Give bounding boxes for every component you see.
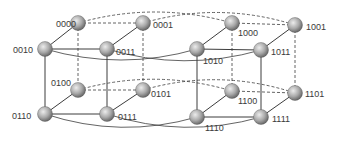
node-label: 1101: [305, 89, 324, 99]
node-sphere-icon: [38, 42, 53, 57]
node-sphere-icon: [254, 43, 269, 58]
node-sphere-icon: [71, 83, 86, 98]
node-sphere-icon: [100, 107, 115, 122]
edge-1010-1011: [197, 49, 261, 50]
node-sphere-icon: [254, 110, 269, 125]
node-label: 1000: [238, 28, 258, 38]
dashed-edge-1100-1101: [232, 91, 295, 93]
node-0111: 0111: [100, 107, 137, 123]
node-label: 0000: [56, 19, 76, 29]
node-label: 0110: [12, 111, 31, 121]
node-label: 1001: [306, 22, 326, 32]
node-0101: 0101: [136, 83, 172, 100]
node-1010: 1010: [190, 42, 224, 67]
node-label: 0101: [151, 89, 171, 99]
hypercube-diagram: 0000000110001001001000111010101101000101…: [0, 0, 337, 142]
node-1101: 1101: [288, 86, 325, 101]
node-label: 0010: [13, 45, 33, 55]
node-label: 1111: [272, 114, 290, 124]
node-0011: 0011: [100, 42, 136, 58]
node-sphere-icon: [100, 42, 115, 57]
node-0001: 0001: [136, 16, 174, 31]
node-sphere-icon: [136, 83, 151, 98]
node-label: 0111: [118, 112, 137, 122]
node-sphere-icon: [190, 110, 205, 125]
node-label: 0100: [51, 78, 71, 88]
node-sphere-icon: [136, 16, 151, 31]
node-0110: 0110: [12, 107, 53, 122]
node-0010: 0010: [13, 42, 53, 57]
node-label: 0001: [153, 20, 173, 30]
node-label: 1100: [238, 96, 257, 106]
node-0100: 0100: [51, 78, 86, 98]
node-sphere-icon: [190, 42, 205, 57]
node-label: 1010: [203, 56, 223, 66]
node-1100: 1100: [225, 84, 258, 107]
dashed-edge-1000-1001: [232, 23, 295, 25]
nodes: 0000000110001001001000111010101101000101…: [12, 16, 326, 134]
node-0000: 0000: [56, 16, 86, 31]
node-1000: 1000: [225, 16, 259, 39]
node-sphere-icon: [288, 18, 303, 33]
node-1110: 1110: [190, 110, 224, 134]
node-sphere-icon: [38, 107, 53, 122]
node-label: 1011: [271, 47, 290, 57]
node-label: 1110: [205, 123, 224, 133]
node-1111: 1111: [254, 110, 291, 125]
node-label: 0011: [116, 47, 135, 57]
node-sphere-icon: [288, 86, 303, 101]
node-1001: 1001: [288, 18, 327, 33]
node-1011: 1011: [254, 43, 291, 58]
